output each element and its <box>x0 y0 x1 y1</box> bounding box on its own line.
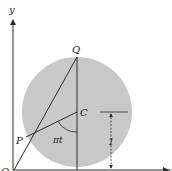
point-C-label: C <box>80 107 88 118</box>
point-P-label: P <box>15 135 23 146</box>
angle-label: πt <box>52 135 63 145</box>
point-Q-label: Q <box>72 44 80 55</box>
y-axis-label: y <box>8 4 15 15</box>
dimension-label: 1 <box>108 136 114 147</box>
diagram: y x O Q C P πt 1 <box>0 0 172 171</box>
x-axis-label: x <box>167 165 172 171</box>
origin-label: O <box>1 166 9 171</box>
